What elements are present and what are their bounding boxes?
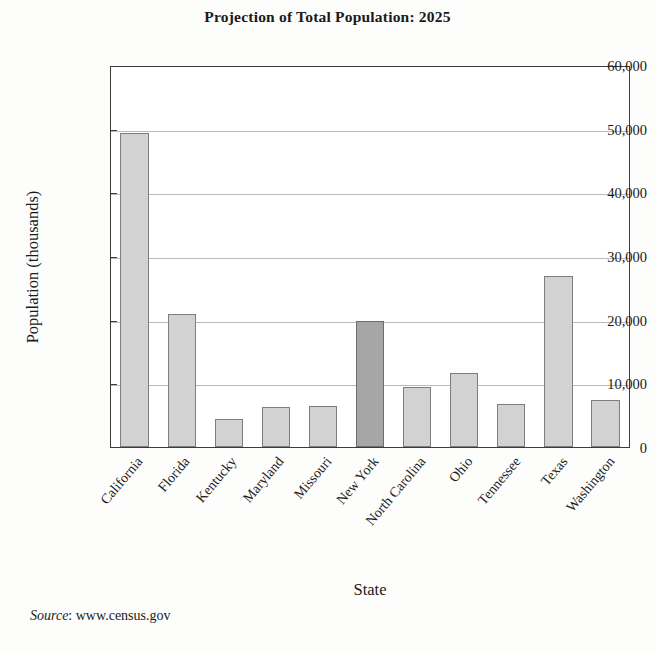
- x-axis-title: State: [110, 580, 630, 600]
- x-slot-california: California: [110, 452, 157, 572]
- bar-california[interactable]: [120, 133, 148, 447]
- bar-ohio[interactable]: [450, 373, 478, 447]
- bar-missouri[interactable]: [309, 406, 337, 447]
- source-value: www.census.gov: [76, 608, 171, 623]
- x-label-florida: Florida: [155, 454, 193, 495]
- chart-title: Projection of Total Population: 2025: [0, 8, 655, 26]
- bar-florida[interactable]: [168, 314, 196, 447]
- x-slot-florida: Florida: [157, 452, 204, 572]
- bar-kentucky[interactable]: [215, 419, 243, 447]
- bar-slot-texas: [535, 67, 582, 447]
- bar-slot-ohio: [441, 67, 488, 447]
- x-axis-labels: California Florida Kentucky Maryland Mis…: [110, 452, 630, 572]
- source-label: Source: [30, 608, 68, 623]
- bar-texas[interactable]: [544, 276, 572, 447]
- bar-slot-missouri: [299, 67, 346, 447]
- x-slot-washington: Washington: [583, 452, 630, 572]
- x-slot-missouri: Missouri: [299, 452, 346, 572]
- bar-slot-washington: [582, 67, 629, 447]
- bar-slot-kentucky: [205, 67, 252, 447]
- source-separator: :: [68, 608, 75, 623]
- bar-slot-florida: [158, 67, 205, 447]
- bar-north-carolina[interactable]: [403, 387, 431, 447]
- source-note: Source: www.census.gov: [30, 608, 171, 624]
- bar-slot-new-york: [346, 67, 393, 447]
- bar-slot-north-carolina: [394, 67, 441, 447]
- x-slot-ohio: Ohio: [441, 452, 488, 572]
- x-slot-kentucky: Kentucky: [205, 452, 252, 572]
- bar-slot-maryland: [252, 67, 299, 447]
- plot-area: [110, 66, 630, 448]
- x-slot-north-carolina: North Carolina: [394, 452, 441, 572]
- x-slot-tennessee: Tennessee: [488, 452, 535, 572]
- bar-slot-tennessee: [488, 67, 535, 447]
- x-slot-maryland: Maryland: [252, 452, 299, 572]
- bar-tennessee[interactable]: [497, 404, 525, 447]
- bar-new-york[interactable]: [356, 321, 384, 447]
- x-label-california: California: [97, 454, 146, 508]
- y-axis-title: Population (thousands): [23, 142, 43, 392]
- bar-maryland[interactable]: [262, 407, 290, 447]
- bar-slot-california: [111, 67, 158, 447]
- x-label-texas: Texas: [538, 454, 571, 489]
- bars-layer: [111, 67, 629, 447]
- x-label-ohio: Ohio: [446, 454, 476, 486]
- bar-washington[interactable]: [591, 400, 619, 447]
